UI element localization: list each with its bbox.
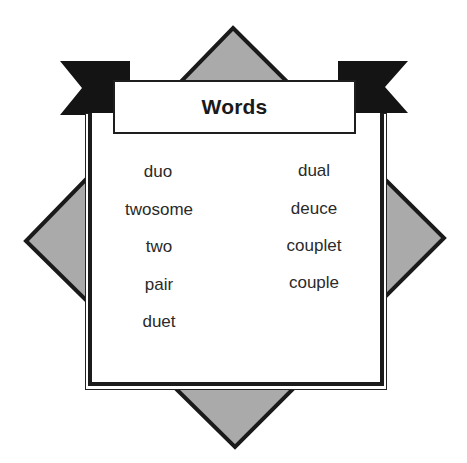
word-left-2: twosome — [99, 200, 219, 220]
word-right-2: deuce — [254, 199, 374, 219]
title-banner: Words — [113, 80, 356, 134]
word-left-3: two — [99, 237, 219, 257]
word-right-1: dual — [254, 161, 374, 181]
word-left-1: duo — [98, 162, 218, 182]
word-right-3: couplet — [254, 236, 374, 256]
panel-title: Words — [202, 95, 268, 119]
word-left-4: pair — [99, 275, 219, 295]
word-right-4: couple — [254, 273, 374, 293]
word-left-5: duet — [99, 312, 219, 332]
